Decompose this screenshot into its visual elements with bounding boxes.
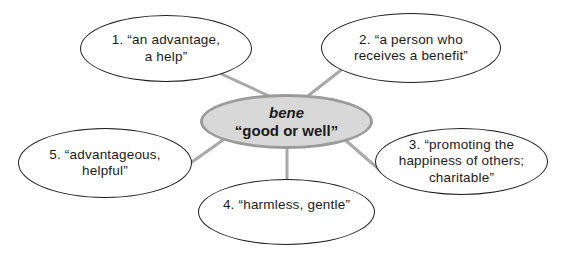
root-node: bene “good or well” xyxy=(200,94,373,149)
definition-line: a help” xyxy=(145,49,188,65)
definition-node-3: 3. “promoting the happiness of others; c… xyxy=(375,128,548,195)
definition-line: happiness of others; xyxy=(399,153,525,169)
definition-line: 4. “harmless, gentle” xyxy=(223,197,350,213)
definition-node-4: 4. “harmless, gentle” xyxy=(198,179,375,245)
definition-line: charitable” xyxy=(429,170,494,186)
definition-line: 2. “a person who xyxy=(359,32,463,48)
definition-line: 1. “an advantage, xyxy=(112,32,220,48)
definition-line: helpful” xyxy=(82,163,128,179)
definition-line: 3. “promoting the xyxy=(409,137,514,153)
definition-line: receives a benefit” xyxy=(354,48,468,64)
root-meaning: “good or well” xyxy=(235,122,338,140)
root-term: bene xyxy=(269,104,304,122)
word-web-diagram: 1. “an advantage, a help” 2. “a person w… xyxy=(0,0,576,261)
definition-node-1: 1. “an advantage, a help” xyxy=(80,15,252,82)
definition-node-5: 5. “advantageous, helpful” xyxy=(18,128,192,198)
definition-line: 5. “advantageous, xyxy=(49,147,160,163)
definition-node-2: 2. “a person who receives a benefit” xyxy=(321,13,501,83)
